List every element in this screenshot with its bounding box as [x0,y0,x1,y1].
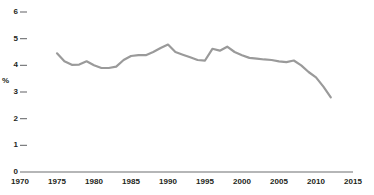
y-axis-tick-label: 0 [2,168,18,176]
line-chart: 6543210 19701975198019851990199520002005… [0,0,374,195]
y-axis-tick-label: 5 [2,35,18,43]
x-axis-tick-label: 1980 [80,178,108,186]
series-line-series-1 [57,45,331,98]
x-axis-tick-label: 1985 [117,178,145,186]
x-axis-tick-label: 1970 [6,178,34,186]
chart-plot-area [0,0,374,195]
y-axis-tick-label: 2 [2,115,18,123]
y-axis-tick-label: 3 [2,88,18,96]
x-axis-tick-label: 2010 [302,178,330,186]
y-axis-tick-label: 6 [2,8,18,16]
data-series-line [57,45,331,98]
x-axis-tick-label: 1990 [154,178,182,186]
x-axis-tick-label: 2015 [339,178,367,186]
x-axis-tick-label: 2000 [228,178,256,186]
y-axis-tick-label: 1 [2,141,18,149]
y-axis-tick-marks [20,12,27,145]
y-axis-tick-label: 4 [2,61,18,69]
x-axis-tick-label: 2005 [265,178,293,186]
x-axis-tick-label: 1975 [43,178,71,186]
x-axis-tick-label: 1995 [191,178,219,186]
y-axis-unit-label: % [2,77,9,85]
